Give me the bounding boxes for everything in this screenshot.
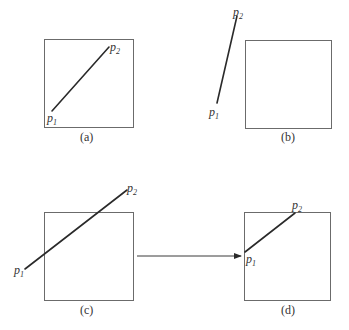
p1-label-b: p1	[208, 105, 219, 121]
caption-b: (b)	[281, 130, 295, 144]
p1-label-c: p1	[13, 263, 24, 279]
line-segment-d	[245, 213, 295, 252]
p2-label-d: p2	[291, 198, 302, 214]
clip-window-a	[45, 40, 134, 128]
panel-b: p1 p2 (b)	[208, 5, 332, 144]
clip-window-b	[246, 41, 332, 129]
panel-c: p1 p2 (c)	[13, 181, 137, 317]
caption-c: (c)	[80, 303, 93, 317]
clipping-diagram: p1 p2 (a) p1 p2 (b) p1 p2 (c) p1 p2 (d)	[0, 0, 349, 330]
p2-label-b: p2	[232, 5, 243, 21]
line-segment-c	[25, 190, 127, 269]
p1-label-a: p1	[46, 111, 57, 127]
clip-window-c	[45, 213, 134, 301]
line-segment-b	[217, 16, 237, 103]
p1-label-d: p1	[245, 252, 256, 268]
caption-d: (d)	[281, 303, 295, 317]
panel-d: p1 p2 (d)	[245, 198, 331, 317]
p2-label-a: p2	[109, 40, 120, 56]
clip-window-d	[245, 213, 331, 301]
line-segment-a	[52, 47, 109, 111]
panel-a: p1 p2 (a)	[45, 40, 134, 145]
caption-a: (a)	[80, 130, 93, 144]
p2-label-c: p2	[126, 181, 137, 197]
